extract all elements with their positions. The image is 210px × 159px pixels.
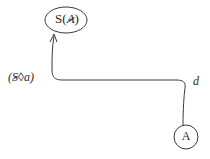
top-node-arg: A	[67, 12, 75, 25]
edge-label-left-symbol: S	[12, 71, 18, 83]
bottom-node-label: A	[179, 130, 193, 142]
top-node-prefix: S(	[55, 11, 67, 26]
top-node-label: S(A)	[50, 12, 84, 25]
edge-label-left-rest: ◊a)	[18, 70, 34, 84]
edge-label-right: d	[193, 75, 199, 87]
transition-edge[interactable]	[52, 36, 185, 125]
edge-label-left: (S◊a)	[8, 71, 34, 83]
top-node-suffix: )	[75, 11, 79, 26]
